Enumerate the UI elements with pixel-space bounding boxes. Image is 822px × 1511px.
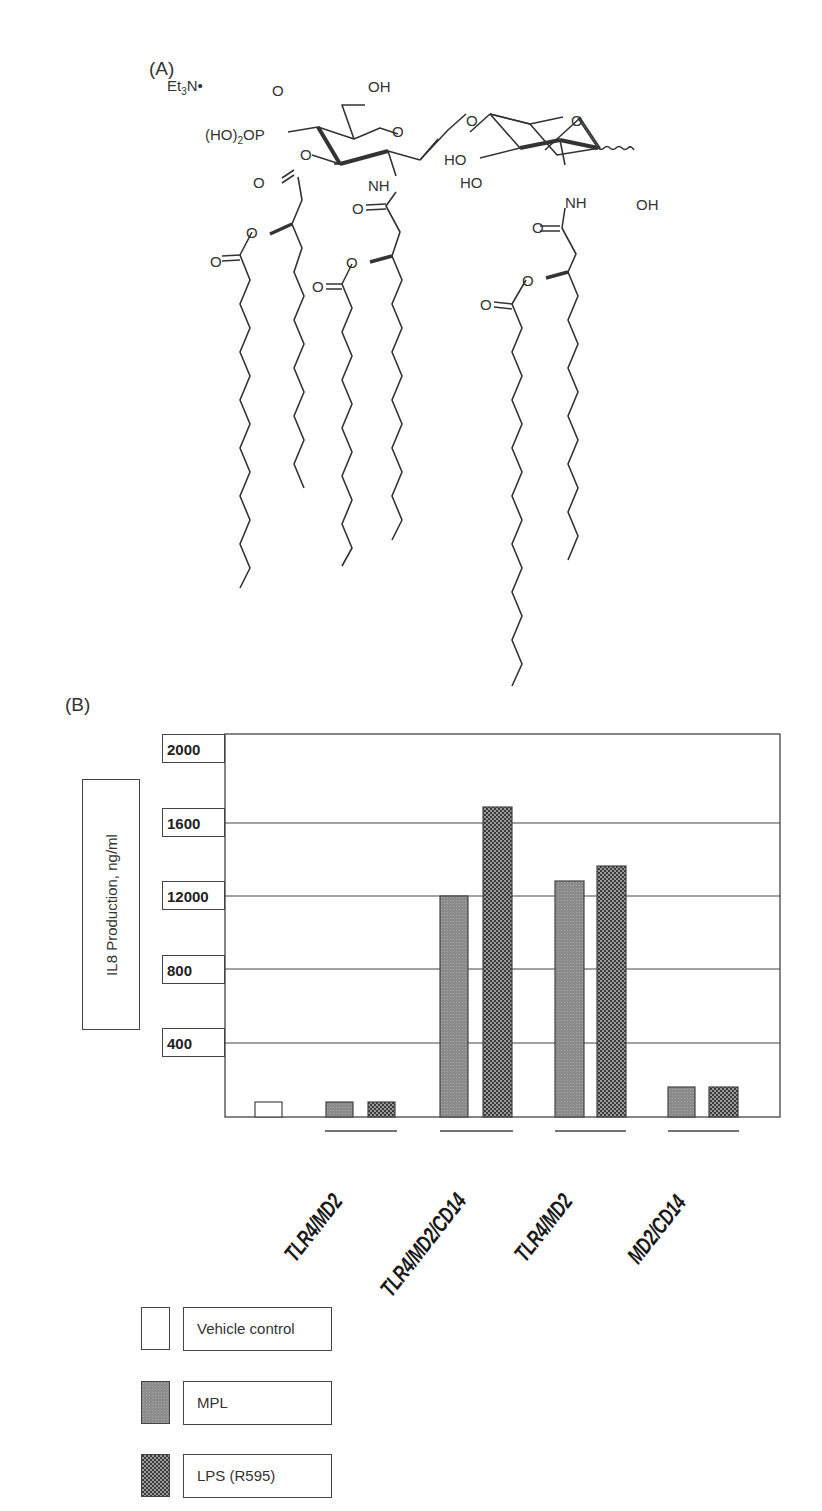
x-label-md2-cd14: MD2/CD14 [622, 1190, 692, 1269]
legend-label-vehicle: Vehicle control [183, 1307, 332, 1351]
bar-vehicle-control [255, 1102, 282, 1117]
bar-tlr4md2-mpl [326, 1102, 353, 1117]
legend-swatch-vehicle [141, 1307, 170, 1350]
legend-label-mpl: MPL [183, 1381, 332, 1425]
bar-tlr4md2b-mpl [555, 881, 584, 1117]
bar-md2cd14-mpl [668, 1087, 695, 1117]
x-label-tlr4-md2-cd14: TLR4/MD2/CD14 [375, 1188, 472, 1302]
x-label-tlr4-md2: TLR4/MD2 [279, 1189, 348, 1267]
bar-tlr4md2b-lps [597, 866, 626, 1117]
legend-swatch-lps [141, 1454, 170, 1497]
x-label-tlr4-md2-second: TLR4/MD2 [509, 1189, 578, 1267]
bar-chart-plot [0, 0, 822, 1200]
legend-label-lps: LPS (R595) [183, 1454, 332, 1498]
bar-tlr4md2cd14-lps [483, 807, 512, 1117]
bar-tlr4md2-lps [368, 1102, 395, 1117]
bar-tlr4md2cd14-mpl [440, 896, 468, 1117]
bar-md2cd14-lps [709, 1087, 738, 1117]
legend-swatch-mpl [141, 1381, 170, 1424]
